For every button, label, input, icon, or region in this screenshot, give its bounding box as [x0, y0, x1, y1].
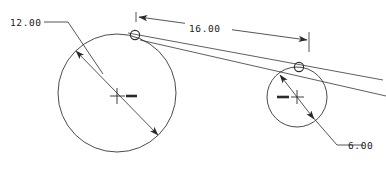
center-distance-label: 16.00	[189, 23, 221, 34]
drawing-svg: 12.00 6.00 16.00	[0, 0, 386, 173]
lower-tangent-construction-line	[140, 40, 386, 96]
small-circle-center-mark	[277, 90, 304, 104]
large-diameter-dimension-line	[76, 51, 158, 135]
tangent-construction-line	[128, 33, 383, 80]
large-diameter-leader	[44, 22, 103, 74]
large-diameter-label: 12.00	[10, 17, 42, 28]
cad-drawing-canvas: 12.00 6.00 16.00	[0, 0, 386, 173]
small-diameter-label: 6.00	[348, 140, 373, 151]
